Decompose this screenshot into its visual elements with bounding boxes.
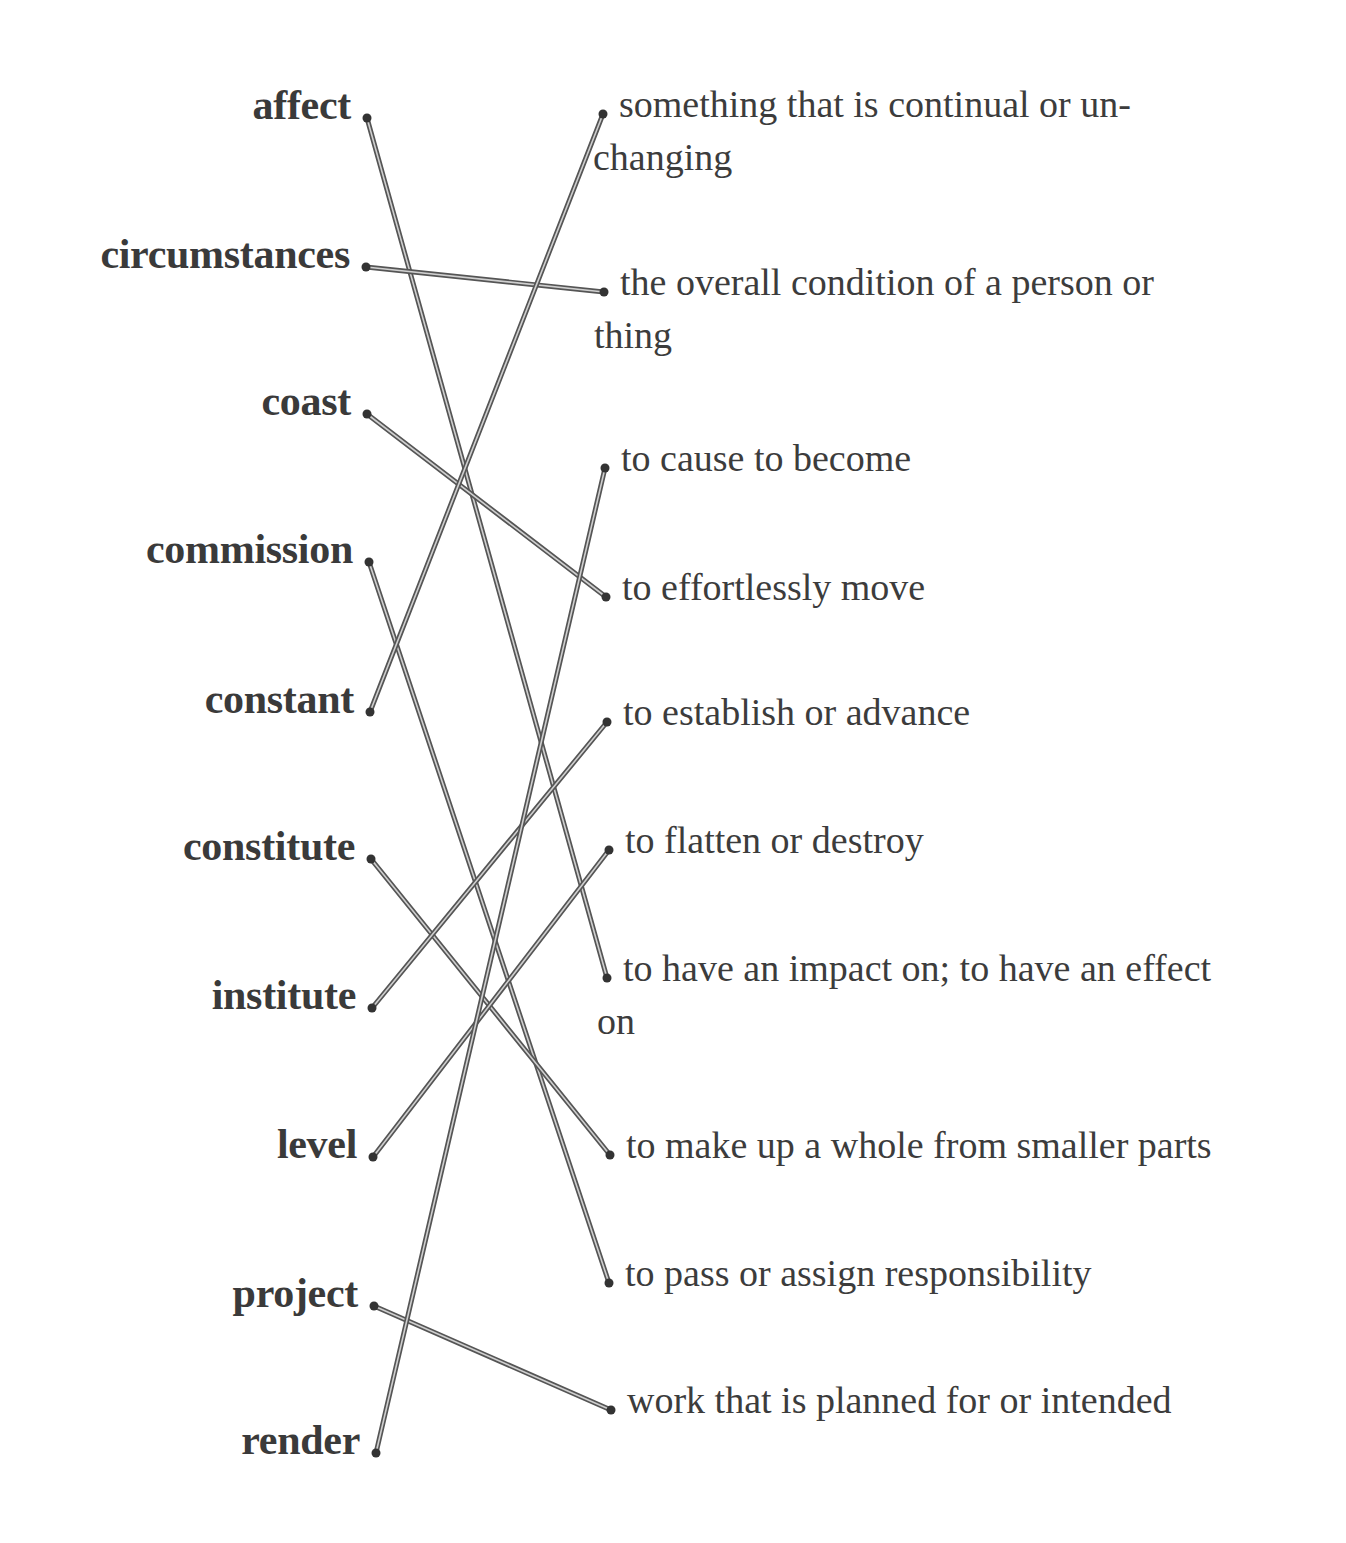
definition-text: to flatten or destroy bbox=[625, 819, 924, 861]
connector-project[interactable] bbox=[374, 1306, 611, 1410]
definition-anchor-dot-icon[interactable] bbox=[607, 1406, 616, 1415]
connector-coast[interactable] bbox=[367, 414, 606, 597]
term-level: level bbox=[277, 1123, 357, 1165]
term-anchor-dot-icon[interactable] bbox=[363, 114, 372, 123]
definition-text: work that is planned for or intended bbox=[627, 1379, 1172, 1421]
connector-circumstances[interactable] bbox=[366, 267, 604, 292]
term-anchor-dot-icon[interactable] bbox=[368, 1004, 377, 1013]
definition-anchor-dot-icon[interactable] bbox=[605, 846, 614, 855]
definition-item: to pass or assign responsibility bbox=[625, 1247, 1092, 1300]
definition-item: to have an impact on; to have an effecto… bbox=[623, 942, 1211, 1048]
definition-item: to establish or advance bbox=[623, 686, 970, 739]
definition-item: to flatten or destroy bbox=[625, 814, 924, 867]
definition-anchor-dot-icon[interactable] bbox=[600, 288, 609, 297]
term-circumstances: circumstances bbox=[100, 233, 350, 275]
term-anchor-dot-icon[interactable] bbox=[369, 1153, 378, 1162]
connector-commission[interactable] bbox=[369, 562, 609, 1283]
term-constant: constant bbox=[205, 678, 354, 720]
term-anchor-dot-icon[interactable] bbox=[367, 855, 376, 864]
definition-anchor-dot-icon[interactable] bbox=[602, 593, 611, 602]
definition-anchor-dot-icon[interactable] bbox=[606, 1151, 615, 1160]
definition-text-continued: changing bbox=[593, 131, 1131, 184]
connector-affect[interactable] bbox=[367, 118, 607, 978]
term-anchor-dot-icon[interactable] bbox=[372, 1449, 381, 1458]
definition-text: to make up a whole from smaller parts bbox=[626, 1124, 1212, 1166]
definition-text: to effortlessly move bbox=[622, 566, 925, 608]
term-commission: commission bbox=[146, 528, 353, 570]
definition-anchor-dot-icon[interactable] bbox=[601, 464, 610, 473]
definition-item: to make up a whole from smaller parts bbox=[626, 1119, 1212, 1172]
definition-text: something that is continual or un- bbox=[619, 83, 1131, 125]
definition-anchor-dot-icon[interactable] bbox=[603, 718, 612, 727]
definition-text-continued: thing bbox=[594, 309, 1154, 362]
definition-item: to effortlessly move bbox=[622, 561, 925, 614]
matching-diagram: affectcircumstancescoastcommissionconsta… bbox=[0, 0, 1346, 1543]
term-anchor-dot-icon[interactable] bbox=[370, 1302, 379, 1311]
definition-anchor-dot-icon[interactable] bbox=[603, 974, 612, 983]
term-affect: affect bbox=[253, 84, 351, 126]
definition-text: to have an impact on; to have an effect bbox=[623, 947, 1211, 989]
definition-text-continued: on bbox=[597, 995, 1211, 1048]
term-anchor-dot-icon[interactable] bbox=[363, 410, 372, 419]
term-anchor-dot-icon[interactable] bbox=[366, 708, 375, 717]
definition-text: to establish or advance bbox=[623, 691, 970, 733]
term-institute: institute bbox=[212, 974, 356, 1016]
definition-anchor-dot-icon[interactable] bbox=[605, 1279, 614, 1288]
definition-item: something that is continual or un-changi… bbox=[619, 78, 1131, 184]
definition-text: to pass or assign responsibility bbox=[625, 1252, 1092, 1294]
term-coast: coast bbox=[262, 380, 351, 422]
definition-item: work that is planned for or intended bbox=[627, 1374, 1172, 1427]
definition-anchor-dot-icon[interactable] bbox=[599, 110, 608, 119]
term-constitute: constitute bbox=[183, 825, 355, 867]
term-render: render bbox=[241, 1419, 360, 1461]
term-anchor-dot-icon[interactable] bbox=[362, 263, 371, 272]
definition-item: the overall condition of a person orthin… bbox=[620, 256, 1154, 362]
definition-text: the overall condition of a person or bbox=[620, 261, 1154, 303]
definition-item: to cause to become bbox=[621, 432, 911, 485]
term-project: project bbox=[233, 1272, 358, 1314]
term-anchor-dot-icon[interactable] bbox=[365, 558, 374, 567]
definition-text: to cause to become bbox=[621, 437, 911, 479]
